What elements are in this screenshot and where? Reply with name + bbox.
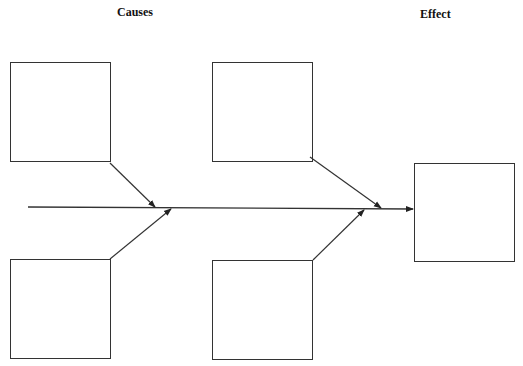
bone-arrow-top-left xyxy=(110,163,155,207)
spine-arrow xyxy=(28,207,413,209)
bone-arrow-bottom-left xyxy=(110,209,171,259)
fishbone-connectors xyxy=(0,0,523,366)
bone-arrow-top-right xyxy=(310,157,381,208)
bone-arrow-bottom-right xyxy=(313,210,364,260)
